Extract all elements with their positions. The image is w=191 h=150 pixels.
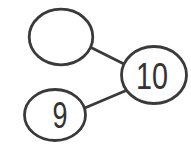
circle-empty-part[interactable] [29, 9, 93, 65]
number-bond-canvas: 10 9 [0, 0, 191, 150]
connector-line-bottomleft-to-right [80, 88, 132, 110]
number-bond-diagram: 10 9 [0, 0, 191, 150]
connector-line-topleft-to-right [86, 45, 128, 66]
part-value-label: 9 [53, 95, 68, 136]
whole-value-label: 10 [136, 56, 168, 97]
